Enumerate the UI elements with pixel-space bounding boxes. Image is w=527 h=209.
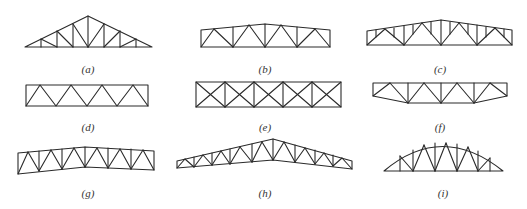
truss-g: [18, 147, 154, 174]
truss-d: [26, 85, 148, 106]
truss-a: [25, 16, 152, 47]
truss-i: [384, 143, 503, 171]
label-f: (f): [435, 121, 445, 133]
label-i: (i): [438, 187, 448, 199]
truss-f: [373, 83, 507, 103]
label-g: (g): [82, 187, 95, 199]
label-a: (a): [82, 63, 95, 75]
label-b: (b): [259, 63, 272, 75]
label-c: (c): [434, 63, 446, 75]
label-e: (e): [259, 121, 271, 133]
truss-e: [196, 82, 341, 107]
truss-c: [367, 20, 512, 45]
truss-h: [177, 139, 352, 169]
truss-b: [201, 24, 330, 47]
truss-figure: [0, 0, 527, 209]
label-d: (d): [82, 121, 95, 133]
label-h: (h): [259, 187, 272, 199]
